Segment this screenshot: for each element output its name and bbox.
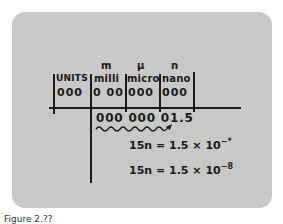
- divider-nano-right: [193, 72, 195, 112]
- divider-micro-nano: [159, 74, 161, 112]
- equation-2-exponent: −8: [221, 162, 233, 171]
- figure-card: [12, 12, 272, 208]
- digits-nano: 000: [162, 86, 188, 99]
- prefix-symbol-milli: m: [101, 60, 111, 71]
- equation-1-exponent: −*: [221, 137, 232, 146]
- figure-caption: Figure 2.??: [4, 214, 52, 224]
- prefix-symbol-micro: μ: [137, 60, 144, 71]
- header-nano: nano: [162, 73, 191, 84]
- digits-milli: 0 00: [93, 86, 124, 99]
- horizontal-rule: [49, 107, 241, 109]
- header-micro: micro: [127, 73, 160, 84]
- equation-2: 15n = 1.5 × 10−8: [129, 164, 233, 177]
- divider-left: [53, 74, 55, 114]
- prefix-symbol-nano: n: [171, 60, 178, 71]
- divider-units-milli: [90, 74, 92, 183]
- equation-2-base: 15n = 1.5 × 10: [129, 164, 221, 177]
- digits-units: 000: [57, 86, 83, 99]
- header-milli: milli: [94, 73, 119, 84]
- equation-1-base: 15n = 1.5 × 10: [129, 139, 221, 152]
- digits-micro: 000: [128, 86, 154, 99]
- divider-milli-micro: [125, 74, 127, 112]
- wavy-underline-arrow-icon: [94, 123, 176, 135]
- equation-1: 15n = 1.5 × 10−*: [129, 139, 232, 152]
- header-units: UNITS: [56, 73, 88, 83]
